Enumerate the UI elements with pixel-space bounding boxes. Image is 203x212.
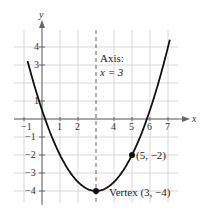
parabola-curve	[28, 40, 170, 191]
y-tick-label: −1	[25, 131, 36, 142]
y-axis-arrow-icon	[39, 20, 45, 28]
parabola-chart: xy−1124567431−1−2−3−4Axis:x = 3Vertex (3…	[0, 0, 203, 212]
vertex-label: Vertex (3, −4)	[109, 186, 171, 199]
y-tick-label: −2	[25, 149, 36, 160]
x-tick-label: 2	[75, 121, 80, 132]
axis-annotation-line2: x = 3	[99, 66, 124, 78]
y-tick-label: 3	[34, 59, 39, 70]
y-tick-label: 4	[34, 41, 39, 52]
axis-annotation-line1: Axis:	[100, 52, 124, 64]
x-tick-label: 4	[111, 121, 116, 132]
x-tick-label: 6	[147, 121, 152, 132]
x-tick-label: 1	[57, 121, 62, 132]
point-marker	[93, 188, 99, 194]
y-tick-label: −3	[25, 167, 36, 178]
y-axis-label: y	[38, 9, 44, 20]
y-tick-label: −4	[25, 185, 36, 196]
point-marker	[129, 152, 135, 158]
x-tick-label: 7	[165, 121, 170, 132]
x-axis-arrow-icon	[182, 116, 190, 122]
x-axis-label: x	[191, 113, 197, 124]
x-tick-label: 5	[129, 121, 134, 132]
point-label: (5, −2)	[136, 149, 166, 162]
